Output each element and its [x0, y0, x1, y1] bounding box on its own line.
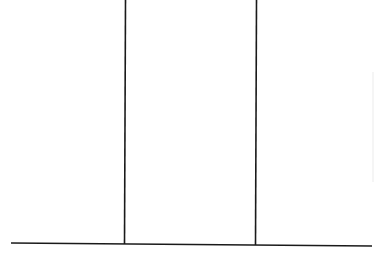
right-vertical-line: [256, 0, 257, 245]
line-diagram: [0, 0, 381, 260]
left-vertical-line: [125, 0, 126, 244]
diagram-background: [0, 0, 381, 260]
